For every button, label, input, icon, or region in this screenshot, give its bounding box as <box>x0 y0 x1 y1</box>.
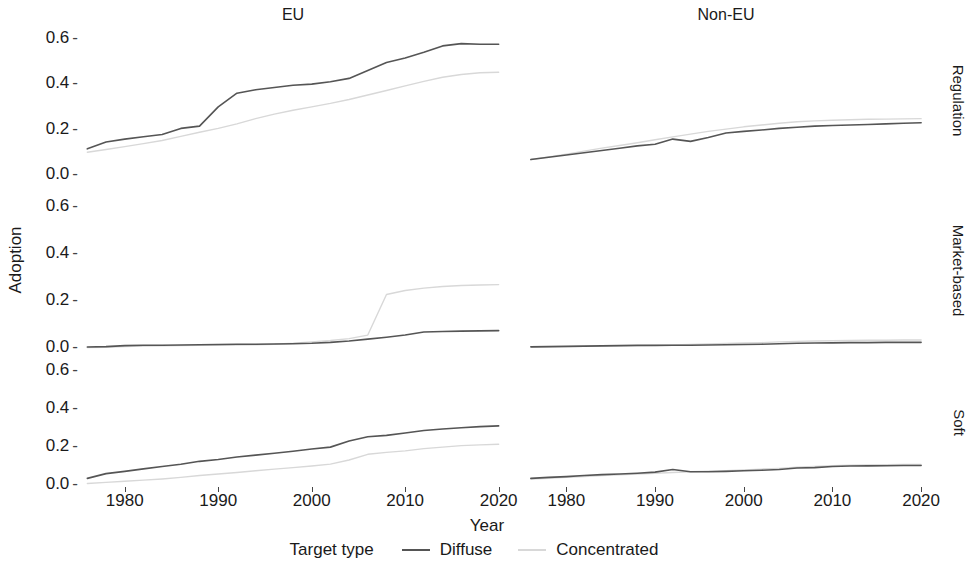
panel-noneu-regulation <box>522 25 930 175</box>
y-tick-label: 0.2- <box>20 119 78 139</box>
x-tick-label: 1990 <box>199 491 237 511</box>
panel-plot-area <box>522 25 930 175</box>
y-tick-label: 0.0- <box>20 474 78 494</box>
y-tick-label: 0.0- <box>20 164 78 184</box>
x-tick-label: 1980 <box>547 491 585 511</box>
panel-plot-area <box>522 360 930 485</box>
series-line-diffuse <box>87 44 498 149</box>
series-line-diffuse <box>531 123 921 160</box>
panel-plot-area <box>78 360 508 485</box>
y-tick-label: 0.6- <box>20 196 78 216</box>
legend-label-concentrated: Concentrated <box>556 540 658 560</box>
panel-plot-area <box>78 25 508 175</box>
legend-key-concentrated[interactable]: Concentrated <box>518 540 658 560</box>
column-title-eu: EU <box>78 6 508 24</box>
panel-noneu-market <box>522 193 930 348</box>
row-strip-market-based: Market-based <box>946 193 972 348</box>
legend-title: Target type <box>290 540 374 560</box>
column-title-non-eu: Non-EU <box>522 6 930 24</box>
panel-eu-market <box>78 193 508 348</box>
y-axis-ticks: 0.6-0.4-0.2-0.0-0.6-0.4-0.2-0.0-0.6-0.4-… <box>0 0 78 520</box>
y-tick-label: 0.6- <box>20 28 78 48</box>
row-strip-soft: Soft <box>946 360 972 485</box>
y-tick-label: 0.4- <box>20 398 78 418</box>
y-tick-label: 0.2- <box>20 290 78 310</box>
x-tick-label: 2000 <box>725 491 763 511</box>
legend-label-diffuse: Diffuse <box>440 540 493 560</box>
y-tick-label: 0.4- <box>20 243 78 263</box>
legend-line-diffuse <box>402 549 430 551</box>
y-tick-label: 0.0- <box>20 337 78 357</box>
panel-plot-area <box>78 193 508 348</box>
panel-eu-soft <box>78 360 508 485</box>
row-strip-soft-text: Soft <box>951 409 968 436</box>
chart-figure: Adoption Year EU Non-EU Regulation Marke… <box>0 0 974 577</box>
x-tick-label: 1990 <box>636 491 674 511</box>
row-strip-regulation-text: Regulation <box>951 64 968 136</box>
legend-line-concentrated <box>518 549 546 551</box>
x-tick-label: 2020 <box>480 491 518 511</box>
panel-noneu-soft <box>522 360 930 485</box>
x-tick-label: 1980 <box>106 491 144 511</box>
x-tick-label: 2000 <box>293 491 331 511</box>
row-strip-market-based-text: Market-based <box>951 225 968 317</box>
x-tick-label: 2010 <box>386 491 424 511</box>
y-tick-label: 0.4- <box>20 73 78 93</box>
x-axis-title: Year <box>0 516 974 536</box>
row-strip-regulation: Regulation <box>946 25 972 175</box>
series-line-concentrated <box>87 444 498 483</box>
x-axis-title-text: Year <box>470 516 504 535</box>
y-tick-label: 0.2- <box>20 436 78 456</box>
series-line-concentrated <box>87 72 498 152</box>
x-tick-label: 2010 <box>814 491 852 511</box>
series-line-diffuse <box>87 331 498 347</box>
panel-plot-area <box>522 193 930 348</box>
panel-eu-regulation <box>78 25 508 175</box>
legend: Target type Diffuse Concentrated <box>0 540 974 560</box>
x-tick-label: 2020 <box>902 491 940 511</box>
legend-key-diffuse[interactable]: Diffuse <box>402 540 493 560</box>
series-line-concentrated <box>87 285 498 348</box>
series-line-diffuse <box>87 426 498 478</box>
y-tick-label: 0.6- <box>20 360 78 380</box>
